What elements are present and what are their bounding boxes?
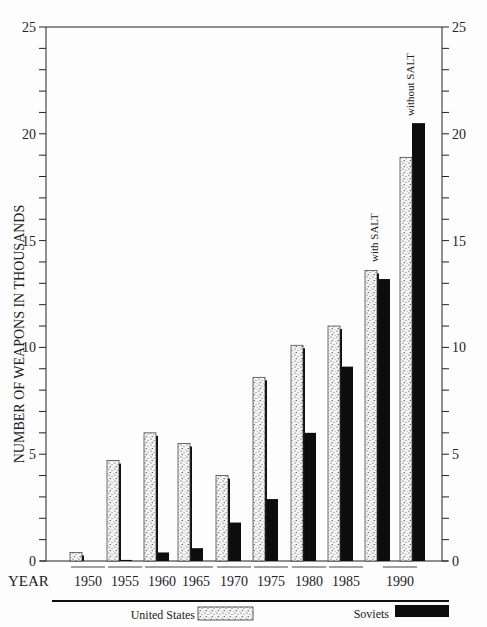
x-tick-label: 1955 [111, 574, 139, 589]
x-tick-label: 1980 [295, 574, 323, 589]
y-tick-label-right: 25 [452, 20, 466, 35]
legend-us-label: United States [131, 608, 196, 622]
us-bar [107, 461, 119, 561]
chart-bars [70, 123, 449, 620]
us-bar [253, 377, 265, 561]
y-tick-label-right: 20 [452, 127, 466, 142]
x-tick-label: 1975 [257, 574, 285, 589]
y-tick-label-left: 25 [22, 20, 36, 35]
y-axis-title: NUMBER OF WEAPONS IN THOUSANDS [12, 205, 27, 464]
us-bar [216, 476, 228, 561]
x-tick-label: 1965 [182, 574, 210, 589]
legend-soviets-label: Soviets [354, 607, 390, 621]
us-bar [365, 271, 377, 561]
us-bar [178, 444, 190, 561]
us-bar [70, 552, 82, 561]
y-tick-label-left: 5 [29, 447, 36, 462]
x-tick-label: 1990 [386, 574, 414, 589]
bar-group [365, 271, 390, 561]
annotation-with-salt: with SALT [368, 213, 380, 262]
us-bar [291, 345, 303, 561]
bar-group [291, 345, 316, 561]
bar-group [216, 476, 241, 561]
bar-group [107, 461, 132, 561]
x-tick-label: 1985 [332, 574, 360, 589]
x-axis-title: YEAR [8, 573, 49, 589]
bar-group [253, 377, 278, 561]
x-tick-label: 1970 [220, 574, 248, 589]
legend-soviets-swatch [395, 605, 449, 617]
us-bar [400, 157, 412, 561]
x-tick-label: 1960 [148, 574, 176, 589]
us-bar [328, 326, 340, 561]
y-tick-label-left: 20 [22, 127, 36, 142]
weapons-bar-chart: 00551010151520202525NUMBER OF WEAPONS IN… [0, 0, 487, 627]
bar-group [400, 123, 425, 561]
annotation-without-salt: without SALT [404, 53, 416, 116]
bar-group [144, 433, 169, 561]
bar-group [178, 444, 203, 561]
y-tick-label-right: 15 [452, 234, 466, 249]
y-tick-label-left: 0 [29, 554, 36, 569]
y-tick-label-right: 10 [452, 340, 466, 355]
bar-group [328, 326, 353, 561]
legend-us-swatch [198, 607, 253, 620]
us-bar [144, 433, 156, 561]
bar-group [70, 552, 84, 561]
y-tick-label-right: 5 [452, 447, 459, 462]
y-tick-label-right: 0 [452, 554, 459, 569]
x-tick-label: 1950 [74, 574, 102, 589]
